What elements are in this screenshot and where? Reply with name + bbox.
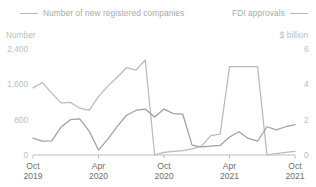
plot-area: 2,4001,6008000 6420 Oct2019Apr2020Oct202…: [0, 0, 316, 187]
y-tick-left: 1,600: [7, 79, 28, 89]
y-tick-right: 4: [304, 79, 309, 89]
x-tick-label-year: 2020: [154, 171, 173, 181]
chart-container: Number of new registered companies FDI a…: [0, 0, 316, 187]
x-tick-label-month: Oct: [26, 161, 40, 171]
x-tick-label-year: 2020: [89, 171, 108, 181]
y-tick-left: 800: [14, 115, 28, 125]
y-tick-right: 0: [304, 150, 309, 160]
x-axis: [33, 155, 295, 159]
y-tick-left: 2,400: [7, 44, 28, 54]
x-tick-label-month: Oct: [157, 161, 171, 171]
x-tick-label-month: Apr: [223, 161, 237, 171]
y-tick-right: 2: [304, 115, 309, 125]
x-tick-label-month: Apr: [92, 161, 106, 171]
x-tick-label-year: 2021: [220, 171, 239, 181]
x-axis-labels: Oct2019Apr2020Oct2020Apr2021Oct2021: [23, 161, 304, 181]
chart-svg: 2,4001,6008000 6420 Oct2019Apr2020Oct202…: [0, 0, 316, 187]
y-axis-left-ticks: 2,4001,6008000: [7, 44, 28, 160]
series-lines: [33, 60, 295, 155]
x-tick-label-year: 2021: [285, 171, 304, 181]
y-axis-right-ticks: 6420: [304, 44, 309, 160]
y-tick-right: 6: [304, 44, 309, 54]
x-tick-label-year: 2019: [23, 171, 42, 181]
series-line-fdi-approvals: [33, 109, 295, 150]
y-tick-left: 0: [23, 150, 28, 160]
x-tick-label-month: Oct: [288, 161, 302, 171]
